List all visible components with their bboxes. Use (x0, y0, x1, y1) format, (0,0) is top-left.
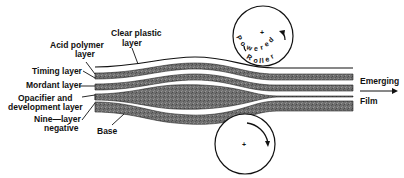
label-timing: Timing layer (32, 66, 83, 76)
clear-plastic-leader (132, 48, 138, 64)
label-acid-polymer-2: layer (75, 49, 96, 59)
base-leader (112, 114, 124, 125)
acid-polymer-leader (86, 62, 95, 74)
label-base: Base (97, 126, 118, 136)
bottom-roller-center-mark: + (242, 141, 246, 148)
label-clear-plastic-2: layer (122, 38, 143, 48)
label-opacifier-2: development layer (8, 102, 83, 112)
bottom-roller: + (215, 114, 275, 174)
emerging-film-arrow (360, 88, 398, 94)
opacifier-leader (82, 95, 95, 97)
layer-stack (95, 57, 353, 124)
emerging-arrowhead (392, 88, 398, 94)
film-processing-diagram: + P o w e r e d R o l l e r + (0, 0, 404, 178)
nine-layer-leader (82, 103, 95, 120)
label-mordant: Mordant layer (26, 80, 82, 90)
label-film: Film (360, 96, 378, 106)
svg-text:e: e (254, 45, 258, 52)
powered-roller: + P o w e r e d R o l l e r (233, 6, 293, 66)
label-nine-layer-2: negative (44, 123, 79, 133)
label-emerging: Emerging (360, 76, 399, 86)
label-clear-plastic-1: Clear plastic (111, 28, 162, 38)
top-roller-center-mark: + (260, 29, 264, 36)
